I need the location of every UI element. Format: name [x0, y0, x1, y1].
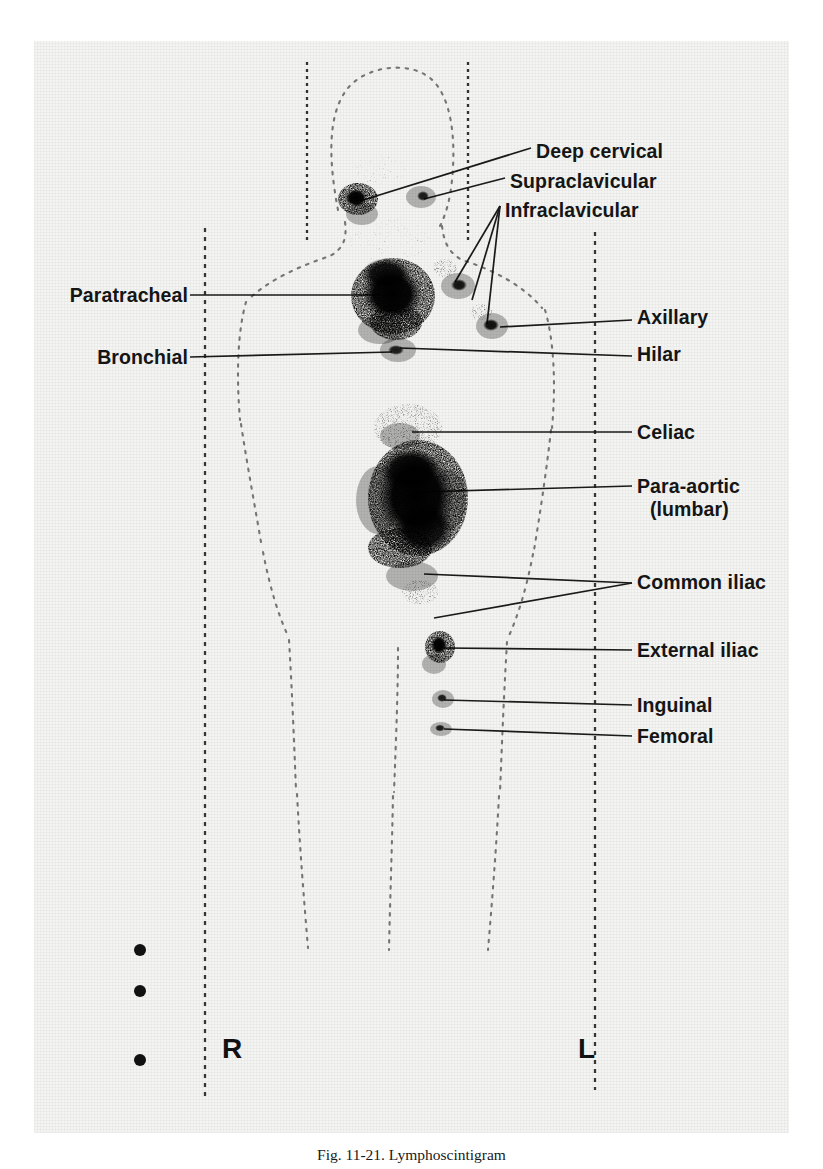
figure-caption: Fig. 11-21. Lymphoscintigram: [0, 1146, 823, 1169]
label-supraclavicular: Supraclavicular: [510, 170, 657, 193]
label-axillary: Axillary: [637, 306, 708, 329]
label-deep-cervical: Deep cervical: [536, 140, 663, 163]
label-hilar: Hilar: [637, 343, 681, 366]
label-infraclavicular: Infraclavicular: [505, 199, 639, 222]
label-paratracheal: Paratracheal: [0, 284, 188, 307]
label-external-iliac: External iliac: [637, 639, 759, 662]
figure-container: Deep cervical Supraclavicular Infraclavi…: [0, 0, 823, 1169]
label-bronchial: Bronchial: [0, 346, 188, 369]
label-para-aortic-sublabel: (lumbar): [650, 498, 729, 521]
right-marker: R: [222, 1035, 242, 1063]
label-inguinal: Inguinal: [637, 694, 713, 717]
label-femoral: Femoral: [637, 725, 714, 748]
label-common-iliac: Common iliac: [637, 571, 766, 594]
left-marker: L: [578, 1035, 595, 1063]
label-celiac: Celiac: [637, 421, 695, 444]
label-para-aortic: Para-aortic: [637, 475, 740, 498]
